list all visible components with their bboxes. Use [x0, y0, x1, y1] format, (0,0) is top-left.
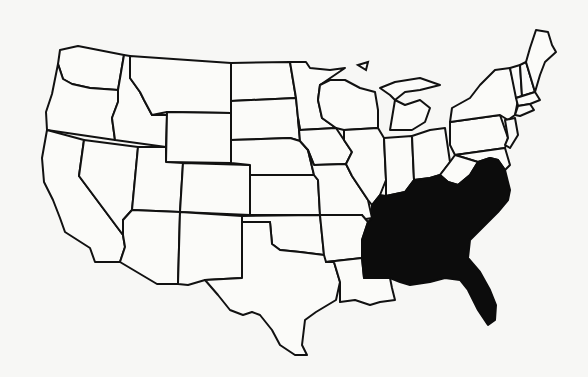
state-az: Arizona	[120, 210, 180, 284]
state-ny: New York	[450, 68, 518, 122]
state-nj: New Jersey	[505, 118, 518, 148]
state-sd: South Dakota	[231, 98, 300, 141]
state-nm: New Mexico	[178, 212, 242, 285]
state-ar: Arkansas	[320, 215, 368, 262]
lake-superior-isle	[358, 62, 368, 70]
state-wy: Wyoming	[166, 112, 231, 163]
state-nd: North Dakota	[231, 62, 296, 101]
us-map: WashingtonOregonCaliforniaIdahoNevadaMon…	[0, 0, 588, 377]
state-ks: Kansas	[250, 175, 320, 215]
state-wi: Wisconsin	[318, 80, 378, 130]
state-ct-ri: Connecticut / Rhode Island	[515, 104, 534, 116]
state-co: Colorado	[180, 163, 250, 215]
state-mi: Michigan	[380, 78, 440, 130]
us-map-svg: WashingtonOregonCaliforniaIdahoNevadaMon…	[0, 0, 588, 377]
